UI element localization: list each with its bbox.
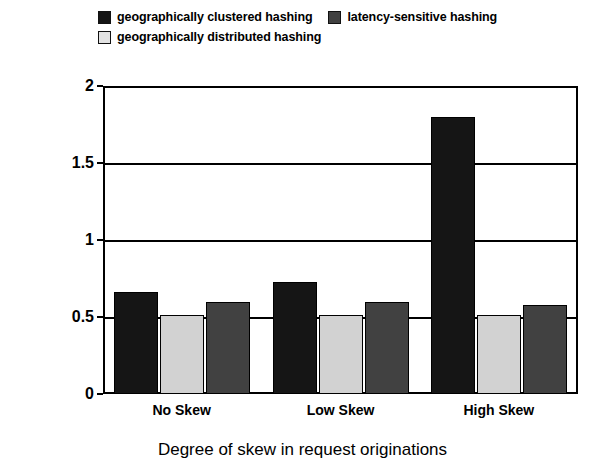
legend-label-latency: latency-sensitive hashing [347,10,497,24]
y-tick-label-3: 1.5 [72,154,94,172]
y-tick-label-0: 0 [85,385,94,403]
plot-area: 00.511.52 [103,86,578,394]
x-axis-ticks: No SkewLow SkewHigh Skew [103,402,578,424]
legend-row-1: geographically clustered hashing latency… [98,10,598,30]
y-tick-label-2: 1 [85,231,94,249]
y-tick-mark-1 [97,316,103,318]
chart-legend: geographically clustered hashing latency… [98,10,598,50]
y-tick-mark-3 [97,162,103,164]
bar-chart-figure: geographically clustered hashing latency… [0,0,605,473]
x-tick-label-2: High Skew [463,402,534,418]
legend-label-clustered: geographically clustered hashing [117,10,312,24]
y-axis-ticks: 00.511.52 [103,86,578,394]
legend-item-geographically-distributed-hashing: geographically distributed hashing [98,30,321,44]
y-tick-mark-2 [97,239,103,241]
legend-item-geographically-clustered-hashing: geographically clustered hashing [98,10,312,24]
x-tick-label-0: No Skew [152,402,210,418]
legend-swatch-icon-distributed [98,31,111,44]
y-tick-mark-4 [97,85,103,87]
legend-label-distributed: geographically distributed hashing [117,30,321,44]
legend-item-latency-sensitive-hashing: latency-sensitive hashing [328,10,497,24]
legend-swatch-icon-latency [328,11,341,24]
legend-swatch-icon-clustered [98,11,111,24]
x-axis-title: Degree of skew in request originations [0,440,605,460]
y-tick-mark-0 [97,393,103,395]
y-tick-label-1: 0.5 [72,308,94,326]
x-tick-label-1: Low Skew [307,402,375,418]
legend-row-2: geographically distributed hashing [98,30,598,50]
y-tick-label-4: 2 [85,77,94,95]
